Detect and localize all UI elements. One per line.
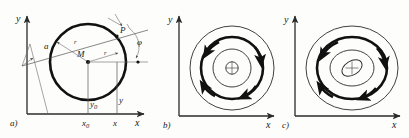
panel-a-radius-upper-label: r [74, 38, 77, 45]
panel-a-angle-tick [127, 24, 130, 29]
panel-a-y-coord-label: y [118, 95, 123, 105]
panel-a-point-p [115, 34, 118, 37]
panel-c-y-axis-label: y [283, 14, 289, 25]
panel-a-tick-left [22, 44, 30, 66]
panel-a-line-a [22, 30, 148, 66]
panel-c-caption: c) [282, 120, 289, 130]
panel-a-tick-left2 [30, 44, 48, 114]
panel-b-caption: b) [163, 120, 171, 130]
panel-a-point-p-label: P [119, 25, 126, 35]
panel-a-angle-label: φ [137, 37, 142, 47]
panel-a-radius-lower-label: r [104, 49, 107, 56]
panel-a-radius-lower [88, 53, 118, 62]
panel-a-x0-label: x0 [81, 118, 90, 129]
panel-a-y-axis-label: y [15, 13, 21, 24]
panel-a: y x a r r M P φ y0 [10, 13, 148, 129]
figure-container: y x a r r M P φ y0 [0, 0, 409, 138]
panel-a-distance-label: a [44, 41, 49, 51]
figure-svg: y x a r r M P φ y0 [0, 0, 409, 138]
panel-a-caption: a) [10, 118, 18, 128]
panel-a-center-label: M [76, 49, 85, 59]
panel-a-x-axis-label: x [134, 117, 140, 128]
panel-b-y-axis-label: y [167, 14, 173, 25]
panel-b-arrow-ne [255, 47, 261, 62]
panel-c: y x c) [282, 14, 400, 130]
panel-c-x-axis-label: x [391, 119, 397, 130]
panel-a-y0-label: y0 [89, 99, 98, 110]
panel-b-x-axis-label: x [265, 119, 271, 130]
panel-a-angle-vertex-dot [136, 60, 139, 63]
panel-b: y x b) [163, 14, 274, 130]
panel-b-arrow-sw [203, 85, 215, 96]
panel-a-x-coord-label: x [112, 118, 117, 128]
